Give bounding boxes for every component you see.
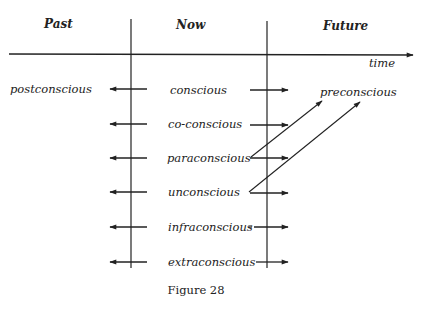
label-paraconscious: paraconscious xyxy=(167,151,251,165)
label-co-conscious: co-conscious xyxy=(168,117,242,131)
label-conscious: conscious xyxy=(170,83,227,97)
figure-caption: Figure 28 xyxy=(167,283,224,297)
label-unconscious: unconscious xyxy=(168,185,240,199)
arrow-diagonal-paraconscious-icon xyxy=(251,101,322,157)
time-axis-label: time xyxy=(369,56,395,70)
header-now: Now xyxy=(175,18,206,32)
left-arrows xyxy=(110,89,147,262)
label-postconscious: postconscious xyxy=(10,82,92,96)
label-extraconscious: extraconscious xyxy=(168,255,255,269)
header-past: Past xyxy=(43,17,73,31)
label-preconscious: preconscious xyxy=(320,85,397,99)
time-axis-arrow xyxy=(9,54,413,55)
label-infraconscious: infraconscious xyxy=(168,220,253,234)
header-future: Future xyxy=(322,19,369,33)
figure-diagram: Past Now Future time postconscious consc… xyxy=(0,0,431,312)
